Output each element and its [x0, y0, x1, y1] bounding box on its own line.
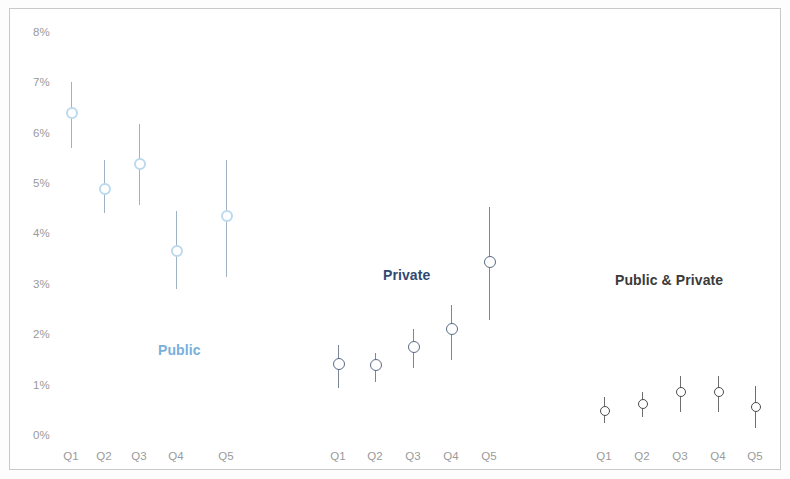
y-axis-tick-label: 2%: [16, 328, 50, 340]
data-point-marker: [484, 256, 496, 268]
x-axis-tick-label: Q5: [475, 450, 503, 462]
data-point-marker: [676, 387, 686, 397]
series-label-public-private: Public & Private: [615, 272, 723, 288]
chart-container: 8%7%6%5%4%3%2%1%0%Q1Q2Q3Q4Q5PublicQ1Q2Q3…: [0, 0, 790, 479]
data-point-marker: [171, 245, 183, 257]
y-axis-tick-label: 5%: [16, 177, 50, 189]
data-point-marker: [714, 387, 724, 397]
y-axis-tick-label: 3%: [16, 278, 50, 290]
data-point-marker: [638, 399, 648, 409]
data-point-marker: [408, 341, 420, 353]
x-axis-tick-label: Q5: [741, 450, 769, 462]
x-axis-tick-label: Q4: [437, 450, 465, 462]
x-axis-tick-label: Q4: [162, 450, 190, 462]
x-axis-tick-label: Q3: [666, 450, 694, 462]
x-axis-tick-label: Q2: [361, 450, 389, 462]
data-point-marker: [751, 402, 761, 412]
x-axis-tick-label: Q2: [90, 450, 118, 462]
data-point-marker: [99, 183, 111, 195]
series-label-public: Public: [158, 342, 201, 358]
y-axis-tick-label: 1%: [16, 379, 50, 391]
y-axis-tick-label: 0%: [16, 429, 50, 441]
plot-area: 8%7%6%5%4%3%2%1%0%Q1Q2Q3Q4Q5PublicQ1Q2Q3…: [0, 0, 790, 479]
data-point-marker: [134, 158, 146, 170]
x-axis-tick-label: Q3: [125, 450, 153, 462]
y-axis-tick-label: 4%: [16, 227, 50, 239]
x-axis-tick-label: Q4: [704, 450, 732, 462]
x-axis-tick-label: Q1: [324, 450, 352, 462]
data-point-marker: [600, 406, 610, 416]
x-axis-tick-label: Q1: [57, 450, 85, 462]
y-axis-tick-label: 6%: [16, 127, 50, 139]
x-axis-tick-label: Q3: [399, 450, 427, 462]
data-point-marker: [66, 107, 78, 119]
data-point-marker: [370, 359, 382, 371]
x-axis-tick-label: Q2: [628, 450, 656, 462]
data-point-marker: [446, 323, 458, 335]
data-point-marker: [221, 210, 233, 222]
y-axis-tick-label: 7%: [16, 76, 50, 88]
y-axis-tick-label: 8%: [16, 26, 50, 38]
x-axis-tick-label: Q5: [212, 450, 240, 462]
data-point-marker: [333, 358, 345, 370]
series-label-private: Private: [383, 267, 430, 283]
x-axis-tick-label: Q1: [590, 450, 618, 462]
